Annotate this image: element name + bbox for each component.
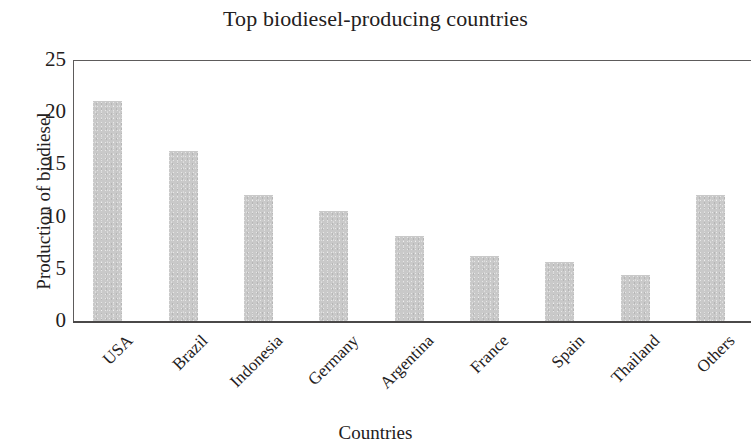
bar <box>319 211 348 323</box>
bar <box>470 256 499 323</box>
bar <box>93 101 122 323</box>
x-axis-tick-labels: USABrazilIndonesiaGermanyArgentinaFrance… <box>73 325 751 415</box>
bar <box>545 262 574 323</box>
y-tick-label: 15 <box>32 153 66 174</box>
x-axis-line <box>73 321 751 323</box>
y-axis-tick-labels: 0510152025 <box>30 0 66 448</box>
plot-area <box>73 60 751 322</box>
bar <box>244 195 273 323</box>
bar <box>621 275 650 323</box>
bar <box>395 236 424 323</box>
y-tick-label: 0 <box>32 310 66 331</box>
y-tick-label: 25 <box>32 49 66 70</box>
y-tick-label: 5 <box>32 258 66 279</box>
y-tick-label: 10 <box>32 206 66 227</box>
bar-chart-figure: Top biodiesel-producing countries Produc… <box>0 0 751 448</box>
x-axis-title: Countries <box>0 422 751 444</box>
bars-layer <box>74 61 751 323</box>
y-tick-label: 20 <box>32 101 66 122</box>
chart-title: Top biodiesel-producing countries <box>0 6 751 32</box>
bar <box>696 195 725 323</box>
bar <box>169 151 198 323</box>
